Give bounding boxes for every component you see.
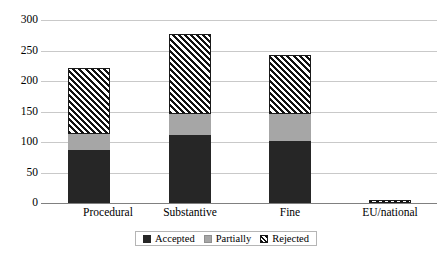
bar-segment-rejected [369,200,411,203]
bar-segment-accepted [68,150,110,203]
y-tick-label: 300 [2,14,38,26]
legend-item-accepted: Accepted [143,233,195,244]
bar-segment-partially [68,134,110,150]
diagonal-hatch-swatch-icon [260,235,268,243]
bar-segment-partially [269,114,311,141]
bar-group-eu-national [369,20,411,203]
y-tick-label: 0 [2,197,38,209]
bar-stack [269,55,311,203]
bar-segment-rejected [169,34,211,115]
solid-gray-swatch-icon [204,235,212,243]
y-tick-label: 50 [2,167,38,179]
y-axis: 300 250 200 150 100 50 0 [0,20,38,203]
bar-group-substantive [169,20,211,203]
bar-segment-partially [169,114,211,135]
legend-label: Partially [216,233,252,244]
bar-segment-accepted [169,135,211,203]
legend-label: Rejected [272,233,309,244]
legend-label: Accepted [155,233,195,244]
x-tick-label-eu-national: EU/national [319,205,443,219]
bar-stack [369,200,411,203]
y-tick-label: 250 [2,45,38,57]
stacked-bar-chart: 300 250 200 150 100 50 0 [0,0,443,266]
y-tick-label: 100 [2,136,38,148]
chart-legend: Accepted Partially Rejected [135,231,317,246]
legend-item-rejected: Rejected [260,233,309,244]
x-axis-baseline [41,203,437,204]
solid-dark-swatch-icon [143,235,151,243]
bar-stack [169,34,211,203]
y-tick-label: 150 [2,106,38,118]
legend-item-partially: Partially [204,233,252,244]
bar-group-fine [269,20,311,203]
bar-group-procedural [68,20,110,203]
bar-segment-accepted [269,141,311,203]
bar-segment-rejected [269,55,311,114]
x-axis: Procedural Substantive Fine EU/national [41,205,437,223]
bar-segment-rejected [68,68,110,135]
bar-stack [68,68,110,203]
bars-layer [41,20,437,203]
y-tick-label: 200 [2,75,38,87]
